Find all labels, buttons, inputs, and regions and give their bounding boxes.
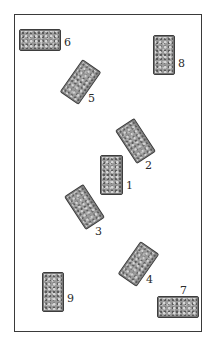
card-number-label: 7 (180, 285, 187, 296)
card-number-label: 8 (178, 58, 185, 69)
card-position-9 (42, 272, 64, 312)
card-position-6 (19, 29, 61, 51)
card-position-8 (153, 35, 175, 75)
card-position-1 (100, 155, 123, 195)
card-number-label: 6 (64, 37, 71, 48)
card-number-label: 1 (126, 180, 133, 191)
card-number-label: 3 (95, 226, 102, 237)
card-number-label: 4 (146, 274, 153, 285)
card-number-label: 2 (145, 160, 152, 171)
card-number-label: 9 (67, 293, 74, 304)
card-position-7 (157, 296, 199, 318)
card-number-label: 5 (88, 93, 95, 104)
